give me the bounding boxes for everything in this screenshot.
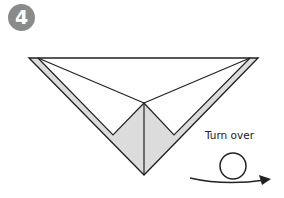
turn-over-label: Turn over [205, 129, 254, 141]
turn-over-arrow-icon [190, 153, 271, 185]
origami-diagram [0, 0, 284, 198]
